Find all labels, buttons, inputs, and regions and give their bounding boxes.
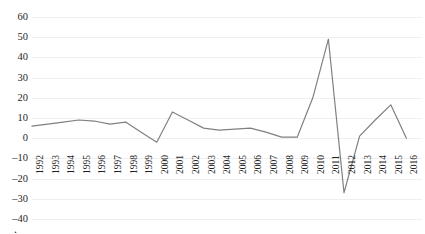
x-axis-tick-label: 2014 xyxy=(379,155,389,174)
x-axis-tick-label: 2013 xyxy=(364,155,374,174)
x-axis-tick-label: 2005 xyxy=(239,155,249,174)
y-axis: 6050403020100–10–20–30–40 xyxy=(0,0,32,234)
x-axis-tick-label: 1996 xyxy=(98,155,108,174)
x-axis-tick-label: 2008 xyxy=(286,155,296,174)
y-axis-tick-label: 20 xyxy=(18,93,29,104)
x-axis-tick-label: 2004 xyxy=(223,155,233,174)
x-axis-tick-label: 2012 xyxy=(348,155,358,174)
x-axis-tick-label: 2007 xyxy=(270,155,280,174)
x-axis-tick-label: 2003 xyxy=(208,155,218,174)
y-axis-tick-label: –30 xyxy=(12,194,28,205)
x-axis-tick-label: 1998 xyxy=(130,155,140,174)
y-axis-tick-label: 50 xyxy=(18,32,29,43)
x-axis-tick-label: 2006 xyxy=(254,155,264,174)
y-axis-tick-label: –20 xyxy=(12,173,28,184)
y-axis-tick-label: 30 xyxy=(18,72,29,83)
x-axis-tick-label: 2000 xyxy=(161,155,171,174)
x-axis-tick-label: 2016 xyxy=(410,155,420,174)
y-axis-tick-label: –10 xyxy=(12,153,28,164)
x-axis-tick-label: 2002 xyxy=(192,155,202,174)
x-axis-tick-label: 2011 xyxy=(332,156,342,175)
x-axis-tick-label: 2010 xyxy=(317,155,327,174)
x-axis-tick-label: 1999 xyxy=(145,155,155,174)
y-axis-tick-label: 40 xyxy=(18,52,29,63)
x-axis-tick-label: 1997 xyxy=(114,155,124,174)
y-axis-tick-label: 60 xyxy=(18,12,29,23)
y-axis-tick-label: 10 xyxy=(18,113,29,124)
x-axis-tick-label: 2001 xyxy=(176,155,186,174)
x-axis-tick-label: 1992 xyxy=(36,155,46,174)
x-axis: 1992199319941995199619971998199920002001… xyxy=(32,0,422,234)
caption-cutoff: . xyxy=(0,223,425,234)
caption-text: . xyxy=(14,223,17,234)
x-axis-tick-label: 1994 xyxy=(67,155,77,174)
x-axis-tick-label: 1993 xyxy=(52,155,62,174)
line-chart: 6050403020100–10–20–30–40 19921993199419… xyxy=(0,0,425,234)
x-axis-tick-label: 2009 xyxy=(301,155,311,174)
y-axis-tick-label: 0 xyxy=(23,133,28,144)
x-axis-tick-label: 1995 xyxy=(83,155,93,174)
x-axis-tick-label: 2015 xyxy=(395,155,405,174)
